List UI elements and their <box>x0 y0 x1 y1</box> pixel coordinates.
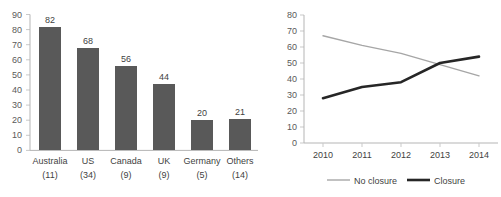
bar-value-label: 56 <box>121 54 131 64</box>
bar-value-label: 68 <box>83 36 93 46</box>
two-panel-chart-figure: 90 80 70 60 50 40 30 20 10 0 <box>0 0 501 197</box>
line-chart-x-tick-marks <box>323 143 479 147</box>
x-tick-label-count: (11) <box>42 170 57 180</box>
bar-value-label: 21 <box>235 107 245 117</box>
x-tick-label: 2010 <box>313 150 333 160</box>
bar-value-label: 82 <box>45 15 55 25</box>
line-series-closure[interactable] <box>323 57 479 99</box>
y-tick-label: 60 <box>12 55 22 65</box>
legend-label-no-closure[interactable]: No closure <box>354 176 397 186</box>
bar-others[interactable] <box>229 119 251 151</box>
x-tick-label-name: Germany <box>183 156 221 166</box>
y-tick-label: 0 <box>292 138 297 148</box>
bar-series <box>39 27 251 151</box>
y-tick-label: 10 <box>287 122 297 132</box>
y-tick-label: 80 <box>287 10 297 20</box>
y-tick-label: 30 <box>12 100 22 110</box>
y-tick-label: 60 <box>287 42 297 52</box>
y-tick-label: 10 <box>12 130 22 140</box>
line-chart-legend: No closure Closure <box>327 176 465 186</box>
bar-canada[interactable] <box>115 66 137 151</box>
x-tick-label: 2013 <box>430 150 450 160</box>
bar-australia[interactable] <box>39 27 61 151</box>
line-chart-y-axis: 80 70 60 50 40 30 20 10 0 <box>287 10 304 148</box>
legend-label-closure[interactable]: Closure <box>434 176 465 186</box>
bar-data-labels: 82 68 56 44 20 21 <box>45 15 245 119</box>
bar-chart-panel: 90 80 70 60 50 40 30 20 10 0 <box>0 0 262 197</box>
x-tick-label-name: Others <box>226 156 254 166</box>
y-tick-label: 40 <box>287 74 297 84</box>
line-chart-panel: 80 70 60 50 40 30 20 10 0 <box>262 0 501 197</box>
x-tick-label-count: (9) <box>121 170 132 180</box>
y-tick-label: 50 <box>287 58 297 68</box>
bar-germany[interactable] <box>191 120 213 150</box>
x-tick-label-count: (34) <box>80 170 96 180</box>
x-tick-label: 2012 <box>391 150 411 160</box>
bar-value-label: 20 <box>197 108 207 118</box>
y-tick-label: 20 <box>287 106 297 116</box>
y-tick-label: 50 <box>12 70 22 80</box>
y-tick-label: 70 <box>287 26 297 36</box>
line-chart-x-tick-labels: 2010 2011 2012 2013 2014 <box>313 150 489 160</box>
y-tick-label: 70 <box>12 40 22 50</box>
y-tick-label: 90 <box>12 10 22 20</box>
y-tick-label: 80 <box>12 25 22 35</box>
bar-us[interactable] <box>77 48 99 151</box>
bar-uk[interactable] <box>153 84 175 150</box>
x-tick-label-name: US <box>82 156 95 166</box>
x-tick-label: 2011 <box>352 150 371 160</box>
x-tick-label-name: UK <box>158 156 171 166</box>
line-chart-svg: 80 70 60 50 40 30 20 10 0 <box>262 0 501 197</box>
bar-chart-x-tick-labels: Australia (11) US (34) Canada (9) UK (9)… <box>32 156 254 180</box>
bar-value-label: 44 <box>159 72 169 82</box>
x-tick-label: 2014 <box>469 150 489 160</box>
x-tick-label-name: Australia <box>32 156 67 166</box>
y-tick-label: 0 <box>17 145 22 155</box>
x-tick-label-count: (9) <box>159 170 170 180</box>
x-tick-label-count: (14) <box>232 170 248 180</box>
line-series-no-closure[interactable] <box>323 36 479 76</box>
bar-chart-svg: 90 80 70 60 50 40 30 20 10 0 <box>0 0 262 197</box>
y-tick-label: 20 <box>12 115 22 125</box>
bar-chart-y-axis: 90 80 70 60 50 40 30 20 10 0 <box>12 10 30 156</box>
x-tick-label-count: (5) <box>197 170 208 180</box>
x-tick-label-name: Canada <box>110 156 142 166</box>
y-tick-label: 40 <box>12 85 22 95</box>
y-tick-label: 30 <box>287 90 297 100</box>
